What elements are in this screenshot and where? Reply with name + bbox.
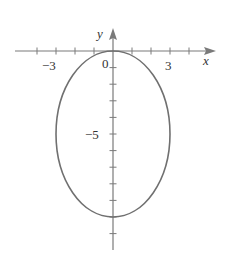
x-tick-label-3: 3	[165, 58, 172, 73]
origin-label: 0	[102, 56, 109, 71]
x-axis-label: x	[202, 53, 209, 68]
y-axis-label: y	[95, 26, 103, 41]
ellipse-plot: y x 0 −3 3 −5	[0, 0, 241, 253]
x-tick-label-neg3: −3	[42, 58, 56, 73]
y-tick-label-neg5: −5	[85, 127, 99, 142]
